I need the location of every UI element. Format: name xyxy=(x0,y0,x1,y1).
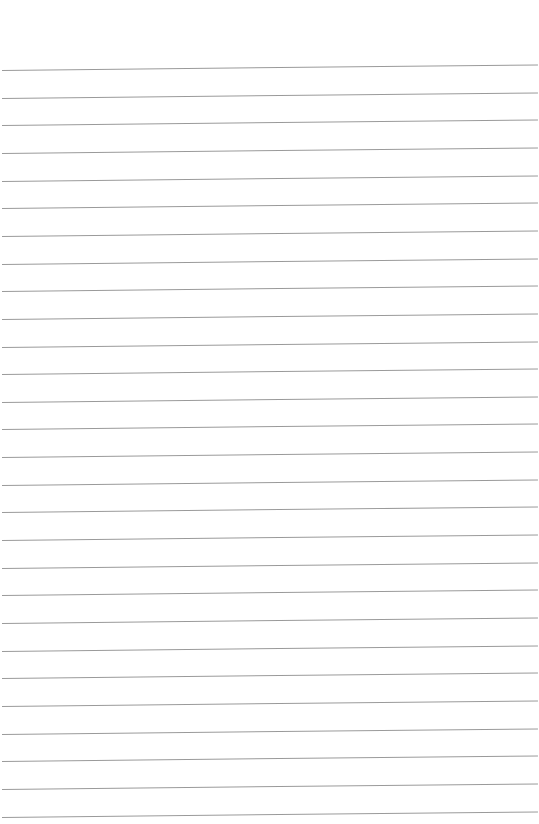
ruled-line xyxy=(2,756,538,763)
ruled-line xyxy=(2,590,538,597)
ruled-line xyxy=(2,783,538,790)
ruled-line xyxy=(2,396,538,403)
ruled-line xyxy=(2,673,538,680)
ruled-line xyxy=(2,451,538,458)
ruled-line xyxy=(2,92,538,99)
ruled-line xyxy=(2,617,538,624)
ruled-line xyxy=(2,313,538,320)
ruled-line xyxy=(2,341,538,348)
ruled-line xyxy=(2,175,538,182)
ruled-line xyxy=(2,645,538,652)
ruled-line xyxy=(2,120,538,127)
ruled-line xyxy=(2,534,538,541)
ruled-line xyxy=(2,147,538,154)
ruled-line xyxy=(2,562,538,569)
ruled-line xyxy=(2,369,538,376)
ruled-line xyxy=(2,700,538,707)
ruled-line xyxy=(2,811,538,818)
ruled-line xyxy=(2,258,538,265)
ruled-line xyxy=(2,230,538,237)
ruled-line xyxy=(2,64,538,71)
ruled-line xyxy=(2,424,538,431)
lined-paper-sheet xyxy=(0,0,539,824)
ruled-line xyxy=(2,479,538,486)
ruled-line xyxy=(2,507,538,514)
ruled-line xyxy=(2,728,538,735)
ruled-line xyxy=(2,203,538,210)
ruled-line xyxy=(2,286,538,293)
